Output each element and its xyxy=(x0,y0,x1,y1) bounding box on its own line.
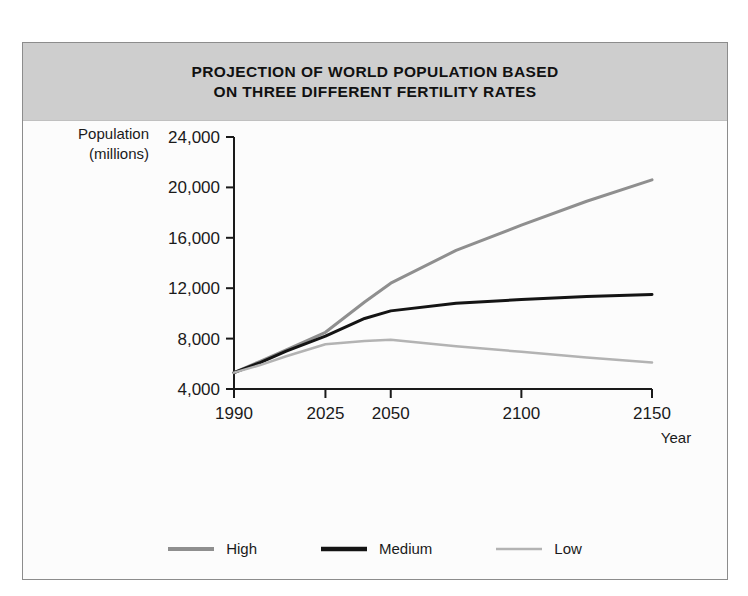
chart-title-line-1: PROJECTION OF WORLD POPULATION BASED xyxy=(191,62,558,82)
y-tick-label: 8,000 xyxy=(177,330,220,349)
x-tick-label: 1990 xyxy=(215,404,253,423)
y-tick-label: 4,000 xyxy=(177,380,220,399)
y-tick-label: 24,000 xyxy=(168,128,220,147)
x-tick-label: 2100 xyxy=(502,404,540,423)
legend-label: Low xyxy=(554,540,582,557)
legend-line-icon xyxy=(168,544,214,554)
figure-frame: PROJECTION OF WORLD POPULATION BASED ON … xyxy=(22,42,728,580)
y-tick-label: 12,000 xyxy=(168,279,220,298)
legend-label: Medium xyxy=(379,540,432,557)
chart-title-line-2: ON THREE DIFFERENT FERTILITY RATES xyxy=(213,82,536,102)
legend-item-medium[interactable]: Medium xyxy=(321,540,432,557)
x-tick-label: 2050 xyxy=(372,404,410,423)
legend-item-high[interactable]: High xyxy=(168,540,257,557)
x-tick-label: 2025 xyxy=(307,404,345,423)
y-axis-tick-labels: 4,0008,00012,00016,00020,00024,000 xyxy=(168,128,220,399)
plot-area-wrapper: 4,0008,00012,00016,00020,00024,000 19902… xyxy=(23,121,727,580)
line-chart: 4,0008,00012,00016,00020,00024,000 19902… xyxy=(23,121,729,521)
x-tick-label: 2150 xyxy=(633,404,671,423)
legend-line-icon xyxy=(321,544,367,554)
y-axis-label-line-1: Population xyxy=(78,125,149,142)
x-axis-label: Year xyxy=(661,429,691,446)
chart-title-band: PROJECTION OF WORLD POPULATION BASED ON … xyxy=(23,43,727,121)
axis-lines xyxy=(234,137,652,389)
y-axis-label-line-2: (millions) xyxy=(89,145,149,162)
data-series-group xyxy=(234,180,652,373)
legend-label: High xyxy=(226,540,257,557)
y-tick-label: 20,000 xyxy=(168,178,220,197)
y-tick-label: 16,000 xyxy=(168,229,220,248)
x-axis-tick-labels: 19902025205021002150 xyxy=(215,404,671,423)
legend-item-low[interactable]: Low xyxy=(496,540,582,557)
series-line-medium xyxy=(234,295,652,373)
chart-legend: HighMediumLow xyxy=(23,540,727,557)
legend-line-icon xyxy=(496,544,542,554)
